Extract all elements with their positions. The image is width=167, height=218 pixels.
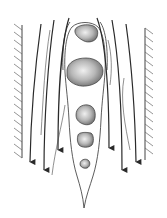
particle-4 — [77, 132, 93, 147]
left-wall — [14, 24, 22, 158]
right-wall-hatching — [145, 28, 153, 154]
particle-2 — [67, 58, 103, 86]
particle-1 — [75, 25, 98, 42]
streamline-right-2 — [112, 20, 122, 170]
right-wall — [145, 28, 153, 160]
streamline-left-2 — [44, 20, 54, 170]
flow-diagram — [0, 0, 167, 218]
diagram-canvas — [0, 0, 167, 218]
particles — [67, 25, 103, 169]
streamline-left-1 — [30, 24, 41, 162]
left-wall-hatching — [14, 24, 22, 158]
particle-3 — [76, 105, 95, 125]
streamline-right-3 — [126, 24, 136, 162]
particle-5 — [80, 159, 90, 168]
